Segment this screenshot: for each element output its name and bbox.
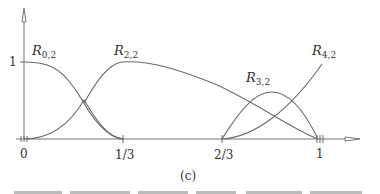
x-tick-label-1-3: 1/3 <box>115 148 134 162</box>
cropped-text-line <box>14 191 362 194</box>
spline-basis-chart: 0 1/3 2/3 1 1 R0,2 R2,2 R3,2 R4,2 (c) <box>0 0 380 194</box>
y-axis-arrow-icon <box>22 8 26 22</box>
figure-caption: (c) <box>180 169 196 183</box>
label-r02: R0,2 <box>31 43 56 60</box>
curve-r02 <box>24 62 123 139</box>
curve-r42 <box>222 64 322 139</box>
label-r22: R2,2 <box>113 43 138 60</box>
x-tick-label-1: 1 <box>316 147 324 161</box>
y-tick-label-1: 1 <box>9 55 17 69</box>
curve-r22 <box>84 62 318 139</box>
label-r42: R4,2 <box>311 43 336 60</box>
x-tick-label-2-3: 2/3 <box>214 148 233 162</box>
x-tick-label-0: 0 <box>20 147 28 161</box>
x-axis-arrow-icon <box>345 137 360 141</box>
label-r32: R3,2 <box>245 70 270 87</box>
